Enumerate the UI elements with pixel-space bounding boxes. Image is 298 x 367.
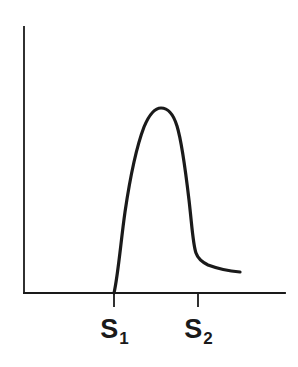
tick-label-s2: S2 (184, 316, 211, 343)
peak-curve (114, 108, 240, 293)
tick-label-s1: S1 (100, 316, 127, 343)
tick-label-s2-base: S (184, 314, 202, 344)
tick-label-s1-base: S (100, 314, 118, 344)
tick-label-s2-subscript: 2 (203, 329, 212, 348)
plot-svg (0, 0, 298, 367)
tick-label-s1-subscript: 1 (119, 329, 128, 348)
figure-container: S1 S2 (0, 0, 298, 367)
